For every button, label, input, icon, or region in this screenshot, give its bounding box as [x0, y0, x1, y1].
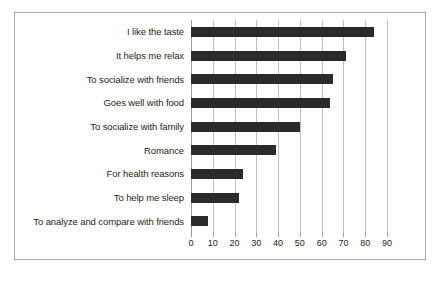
bar	[191, 169, 243, 179]
category-label: To socialize with friends	[15, 67, 191, 91]
tick-mark	[256, 233, 257, 237]
gridline	[387, 20, 388, 233]
tick-mark	[365, 233, 366, 237]
bar-row	[191, 67, 387, 91]
plot-area	[191, 20, 387, 233]
value-axis: 0102030405060708090	[191, 233, 387, 255]
tick-mark	[387, 233, 388, 237]
bar-row	[191, 20, 387, 44]
bar-row	[191, 162, 387, 186]
category-axis: I like the tasteIt helps me relaxTo soci…	[15, 20, 191, 233]
tick-label: 30	[251, 238, 261, 248]
category-label: To help me sleep	[15, 186, 191, 210]
bar	[191, 145, 276, 155]
category-label: Romance	[15, 138, 191, 162]
tick-label: 80	[360, 238, 370, 248]
tick-label: 20	[230, 238, 240, 248]
bar	[191, 216, 208, 226]
bar	[191, 98, 330, 108]
tick-label: 90	[382, 238, 392, 248]
bar-row	[191, 138, 387, 162]
bar-row	[191, 91, 387, 115]
tick-label: 0	[188, 238, 193, 248]
category-label: I like the taste	[15, 20, 191, 44]
tick-label: 50	[295, 238, 305, 248]
tick-mark	[300, 233, 301, 237]
tick-label: 10	[208, 238, 218, 248]
tick-label: 40	[273, 238, 283, 248]
bar-row	[191, 209, 387, 233]
bar	[191, 27, 374, 37]
category-label: Goes well with food	[15, 91, 191, 115]
tick-mark	[191, 233, 192, 237]
category-label: To analyze and compare with friends	[15, 209, 191, 233]
bar-series	[191, 20, 387, 233]
tick-label: 70	[338, 238, 348, 248]
bar	[191, 51, 346, 61]
bar-row	[191, 186, 387, 210]
bar	[191, 193, 239, 203]
tick-mark	[213, 233, 214, 237]
bar-row	[191, 115, 387, 139]
tick-mark	[235, 233, 236, 237]
tick-label: 60	[317, 238, 327, 248]
category-label: To socialize with family	[15, 115, 191, 139]
category-label: It helps me relax	[15, 44, 191, 68]
bar	[191, 74, 333, 84]
bar	[191, 122, 300, 132]
bar-row	[191, 44, 387, 68]
tick-mark	[343, 233, 344, 237]
chart-frame: I like the tasteIt helps me relaxTo soci…	[14, 12, 426, 260]
tick-mark	[322, 233, 323, 237]
category-label: For health reasons	[15, 162, 191, 186]
tick-mark	[278, 233, 279, 237]
chart-plot-wrapper: I like the tasteIt helps me relaxTo soci…	[15, 13, 425, 259]
